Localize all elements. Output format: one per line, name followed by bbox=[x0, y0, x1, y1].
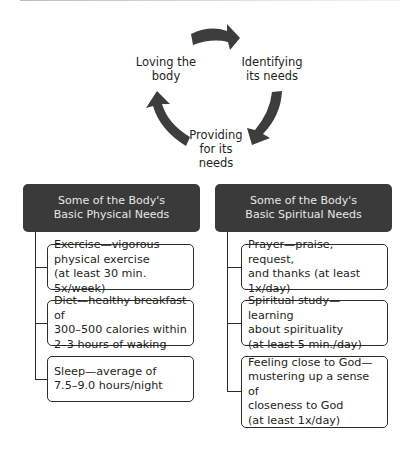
physical-connector-branch bbox=[35, 379, 47, 380]
cycle-step-loving-body: Loving the body bbox=[132, 55, 200, 83]
physical-connector-branch bbox=[35, 267, 47, 268]
spiritual-connector-branch bbox=[227, 267, 241, 268]
physical-need-exercise: Exercise—vigorous physical exercise (at … bbox=[47, 244, 194, 290]
spiritual-connector-line bbox=[227, 232, 228, 392]
arrow-up-icon bbox=[146, 91, 190, 146]
physical-need-diet: Diet—healthy breakfast of 300–500 calori… bbox=[47, 300, 194, 346]
care-cycle-diagram: Loving the body Identifying its needs Pr… bbox=[0, 0, 416, 175]
physical-needs-header: Some of the Body's Basic Physical Needs bbox=[23, 184, 200, 232]
spiritual-need-close-to-god: Feeling close to God— mustering up a sen… bbox=[241, 356, 388, 428]
physical-need-sleep: Sleep—average of 7.5–9.0 hours/night bbox=[47, 356, 194, 402]
physical-connector-branch bbox=[35, 323, 47, 324]
spiritual-need-study: Spiritual study—learning about spiritual… bbox=[241, 300, 388, 346]
arrow-right-icon bbox=[191, 24, 240, 50]
spiritual-connector-branch bbox=[227, 323, 241, 324]
cycle-step-providing-needs: Providing for its needs bbox=[186, 128, 246, 170]
cycle-step-identifying-needs: Identifying its needs bbox=[236, 55, 308, 83]
physical-connector-line bbox=[35, 232, 36, 380]
spiritual-connector-branch bbox=[227, 391, 241, 392]
spiritual-need-prayer: Prayer—praise, request, and thanks (at l… bbox=[241, 244, 388, 290]
spiritual-needs-header: Some of the Body's Basic Spiritual Needs bbox=[215, 184, 392, 232]
arrow-down-left-icon bbox=[247, 91, 282, 145]
